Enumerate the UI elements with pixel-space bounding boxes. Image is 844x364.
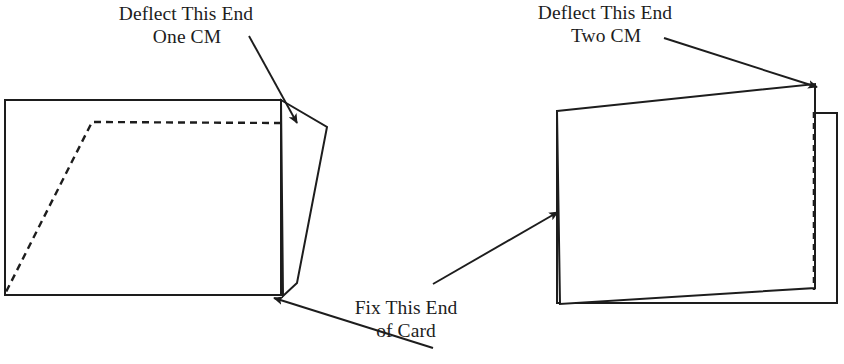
left-deflected-card <box>281 100 327 296</box>
label-deflect-one-line2: One CM <box>80 25 294 48</box>
label-fix-this-end-of-card: Fix This End of Card <box>316 296 496 342</box>
label-fix-end-line2: of Card <box>316 319 496 342</box>
left-diagram-group <box>5 100 327 296</box>
label-deflect-two-cm: Deflect This End Two CM <box>492 1 718 47</box>
left-undeflected-card <box>5 100 281 295</box>
right-diagram-group <box>557 84 837 304</box>
label-deflect-one-cm: Deflect This End One CM <box>78 2 294 48</box>
label-deflect-one-line1: Deflect This End <box>78 2 294 25</box>
right-deflected-card <box>557 84 815 304</box>
arrow-fix-end-right <box>433 212 558 284</box>
label-fix-end-line1: Fix This End <box>316 296 496 319</box>
label-deflect-two-line1: Deflect This End <box>492 1 718 24</box>
card-deflection-figure: Deflect This End One CM Deflect This End… <box>0 0 844 364</box>
label-deflect-two-line2: Two CM <box>494 24 718 47</box>
